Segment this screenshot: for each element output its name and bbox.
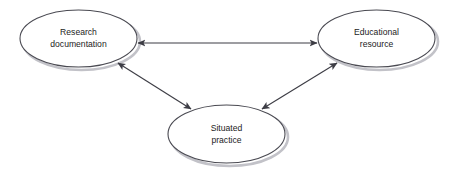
node-educational-resource-label-line2: resource [360, 39, 394, 49]
node-research-documentation[interactable]: Research documentation [20, 10, 137, 67]
edge-research-documentation-to-situated-practice [118, 63, 191, 109]
edge-situated-practice-to-educational-resource [262, 63, 337, 109]
node-situated-practice-label-line2: practice [211, 135, 241, 145]
node-educational-resource-label-line1: Educational [354, 27, 399, 37]
node-situated-practice-label-line1: Situated [211, 123, 243, 133]
diagram-canvas: Research documentation Educational resou… [0, 0, 451, 176]
node-research-documentation-label-line2: documentation [50, 39, 107, 49]
relationship-diagram: Research documentation Educational resou… [0, 0, 451, 176]
node-educational-resource[interactable]: Educational resource [318, 10, 435, 67]
diagram-edges [118, 43, 337, 109]
node-research-documentation-label-line1: Research [60, 27, 97, 37]
node-situated-practice[interactable]: Situated practice [168, 105, 285, 163]
